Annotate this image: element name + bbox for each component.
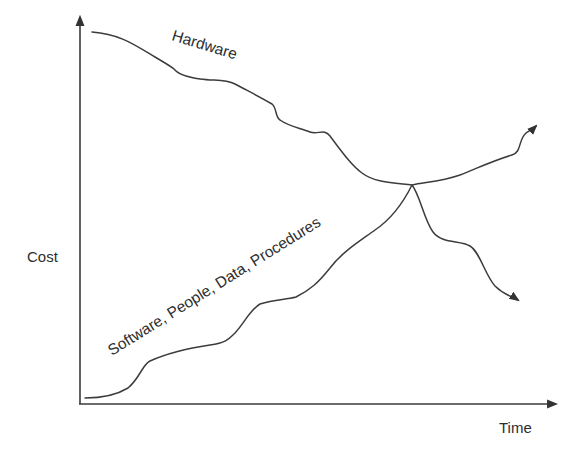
x-axis-label: Time [499, 419, 532, 436]
y-axis-label: Cost [27, 248, 59, 265]
software-people-data-procedures-curve [85, 126, 536, 398]
cost-over-time-diagram: Cost Time Hardware Software, People, Dat… [0, 0, 586, 450]
hardware-label: Hardware [170, 27, 239, 63]
hardware-curve [92, 32, 518, 300]
software-people-data-procedures-label: Software, People, Data, Procedures [105, 213, 324, 359]
